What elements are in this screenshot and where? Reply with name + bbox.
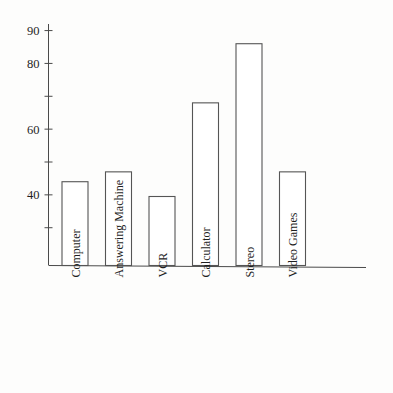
y-tick-label: 90 — [27, 24, 40, 38]
y-tick-label: 60 — [27, 123, 40, 137]
bar-chart: 40608090 ComputerAnswering MachineVCRCal… — [0, 0, 393, 393]
x-category-label: Computer — [69, 230, 83, 278]
y-tick-label: 40 — [27, 188, 40, 202]
y-tick-label: 80 — [27, 57, 40, 71]
x-category-label: Stereo — [243, 247, 257, 278]
x-category-label: Calculator — [199, 228, 213, 278]
bar — [236, 44, 262, 266]
bars-group — [62, 44, 306, 266]
x-category-labels: ComputerAnswering MachineVCRCalculatorSt… — [69, 180, 301, 278]
x-category-label: VCR — [156, 253, 170, 278]
x-category-label: Answering Machine — [112, 180, 126, 278]
x-category-label: Video Games — [286, 212, 300, 277]
chart-canvas: 40608090 ComputerAnswering MachineVCRCal… — [0, 0, 393, 393]
